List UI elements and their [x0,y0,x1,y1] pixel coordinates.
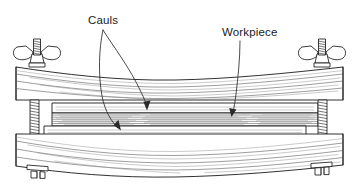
hex-nut-icon-left [27,165,48,178]
caul-strip-icon-upper [52,103,318,113]
wood-beam-icon-bottom [16,134,343,177]
wing-nut-icon-left [13,39,60,67]
press-cross-section-drawing: Cauls Workpiece [0,0,359,186]
label-workpiece: Workpiece [222,26,277,38]
wing-nut-icon-right [298,39,345,67]
lamination-stack-icon [52,113,318,126]
diagram-canvas: Cauls Workpiece [0,0,359,186]
wood-beam-icon-top [16,67,343,100]
label-cauls: Cauls [88,14,118,26]
